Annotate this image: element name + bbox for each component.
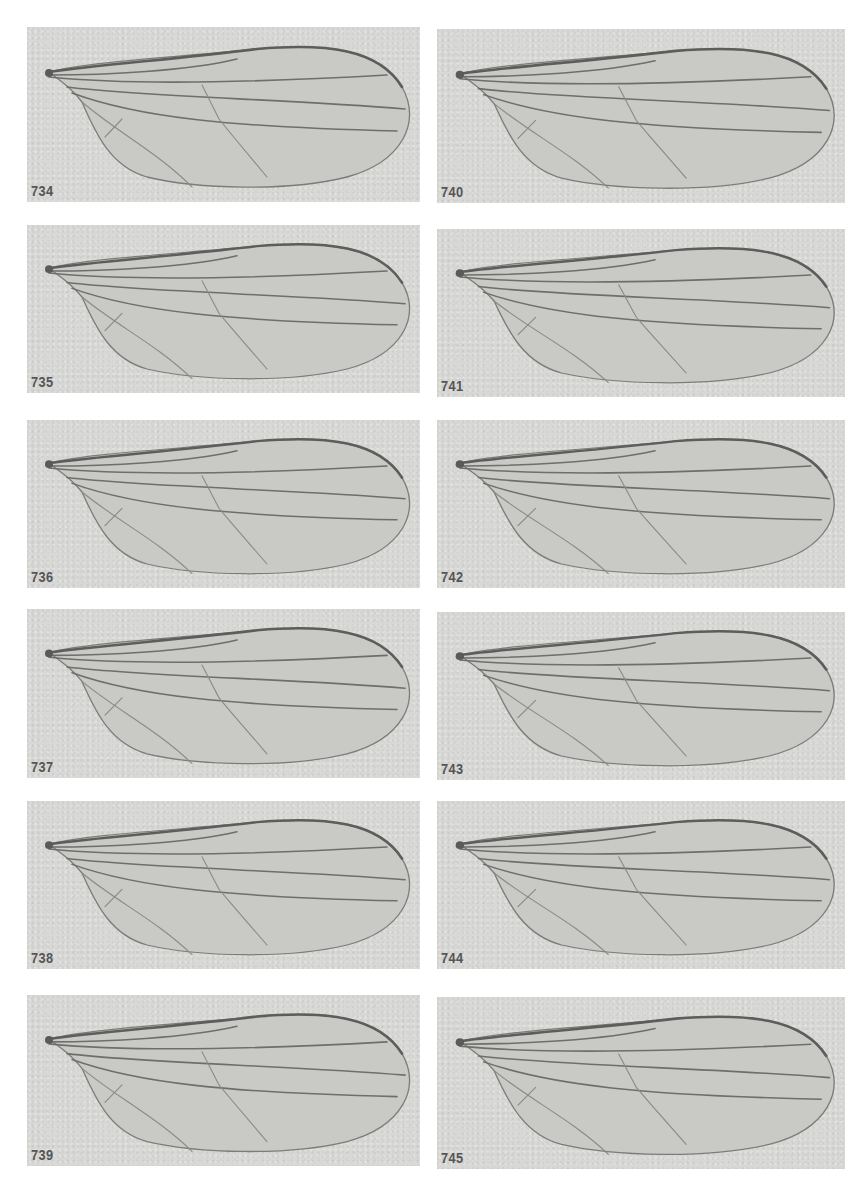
panel-label: 744 [441,949,464,966]
wing-panel-735: 735 [27,225,420,393]
wing-image [437,420,845,588]
wing-panel-743: 743 [437,612,845,780]
panel-label: 738 [31,949,54,966]
wing-image [27,801,420,969]
wing-panel-736: 736 [27,420,420,588]
panel-label: 743 [441,760,464,777]
wing-panel-741: 741 [437,229,845,397]
wing-image [437,997,845,1169]
panel-label: 734 [31,182,54,199]
wing-image [27,995,420,1166]
wing-panel-737: 737 [27,609,420,778]
wing-panel-739: 739 [27,995,420,1166]
panel-label: 735 [31,373,54,390]
panel-label: 741 [441,377,464,394]
panel-label: 742 [441,568,464,585]
wing-image [27,27,420,202]
wing-image [437,29,845,203]
wing-image [27,225,420,393]
wing-panel-742: 742 [437,420,845,588]
wing-panel-744: 744 [437,801,845,969]
panel-label: 737 [31,758,54,775]
panel-label: 740 [441,183,464,200]
wing-image [27,420,420,588]
panel-label: 739 [31,1146,54,1163]
wing-panel-740: 740 [437,29,845,203]
wing-image [437,229,845,397]
wing-panel-734: 734 [27,27,420,202]
wing-panel-745: 745 [437,997,845,1169]
wing-panel-738: 738 [27,801,420,969]
wing-image [437,801,845,969]
wing-image [437,612,845,780]
wing-image [27,609,420,778]
panel-label: 745 [441,1149,464,1166]
panel-label: 736 [31,568,54,585]
